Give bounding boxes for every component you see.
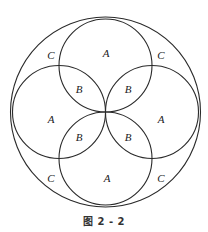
region-label-outer-bottom-right: C (157, 172, 165, 184)
region-label-top-right-lens: B (125, 83, 132, 95)
region-label-bottom-right-lens: B (125, 131, 132, 143)
region-label-outer-top-left: C (47, 49, 55, 61)
figure-caption: 图 2 - 2 (0, 213, 208, 228)
four-circle-diagram: CACBBAABBCAC (0, 0, 208, 232)
inner-circle-bottom (59, 112, 152, 205)
inner-circle-top (59, 19, 152, 112)
inner-circle-right (106, 66, 199, 159)
region-label-top-circle: A (102, 47, 110, 59)
inner-circle-left (13, 66, 106, 159)
region-label-right-circle: A (157, 113, 165, 125)
region-label-left-circle: A (47, 113, 55, 125)
region-label-bottom-circle: A (103, 172, 111, 184)
region-label-top-left-lens: B (76, 83, 83, 95)
region-label-outer-bottom-left: C (47, 172, 55, 184)
region-label-bottom-left-lens: B (76, 131, 83, 143)
region-label-outer-top-right: C (157, 49, 165, 61)
